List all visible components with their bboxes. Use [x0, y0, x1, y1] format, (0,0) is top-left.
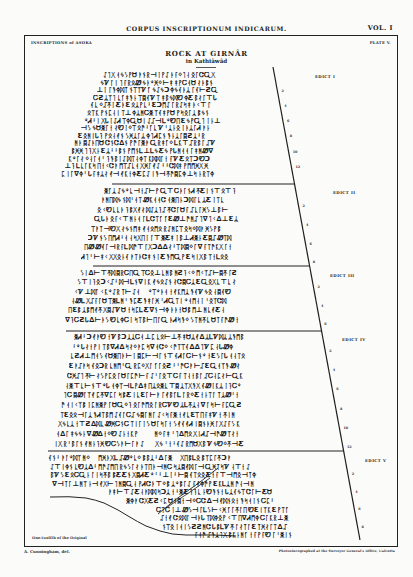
line-number: 4 [355, 490, 357, 494]
line-number: 6 [324, 322, 326, 326]
edict-label-4: EDICT IV [342, 337, 366, 342]
scale-note: One-twelfth of the Original [32, 536, 87, 540]
inscription-outline [0, 0, 413, 577]
line-number: 10 [343, 426, 348, 430]
line-number: 6 [310, 242, 312, 246]
edict-label-3: EDICT III [330, 273, 355, 278]
line-number: 12 [347, 445, 352, 449]
line-number: 6 [358, 507, 360, 511]
line-number: 4 [284, 104, 286, 108]
line-number: 6 [287, 119, 289, 123]
artist-credit: A. Cunningham, del. [24, 549, 70, 554]
line-number: 2 [352, 472, 354, 476]
printer-credit: Photozincographed at the Surveyor Genera… [279, 549, 395, 553]
line-number: 8 [340, 407, 342, 411]
line-number: 2 [281, 89, 283, 93]
line-number: 8 [290, 134, 292, 138]
line-number: 4 [333, 368, 335, 372]
line-number: 6 [336, 387, 338, 391]
line-number: 2 [329, 349, 331, 353]
edict-label-5: EDICT V [365, 458, 386, 463]
edict-label-1: EDICT I [315, 74, 335, 79]
line-number: 8 [313, 260, 315, 264]
line-number: 2 [317, 285, 319, 289]
line-number: 12 [295, 165, 300, 169]
line-number: 4 [321, 304, 323, 308]
line-number: 2 [303, 204, 305, 208]
edict-label-2: EDICT II [333, 190, 355, 195]
line-number: 4 [306, 223, 308, 227]
line-number: 8 [362, 525, 364, 529]
line-number: 10 [293, 150, 298, 154]
